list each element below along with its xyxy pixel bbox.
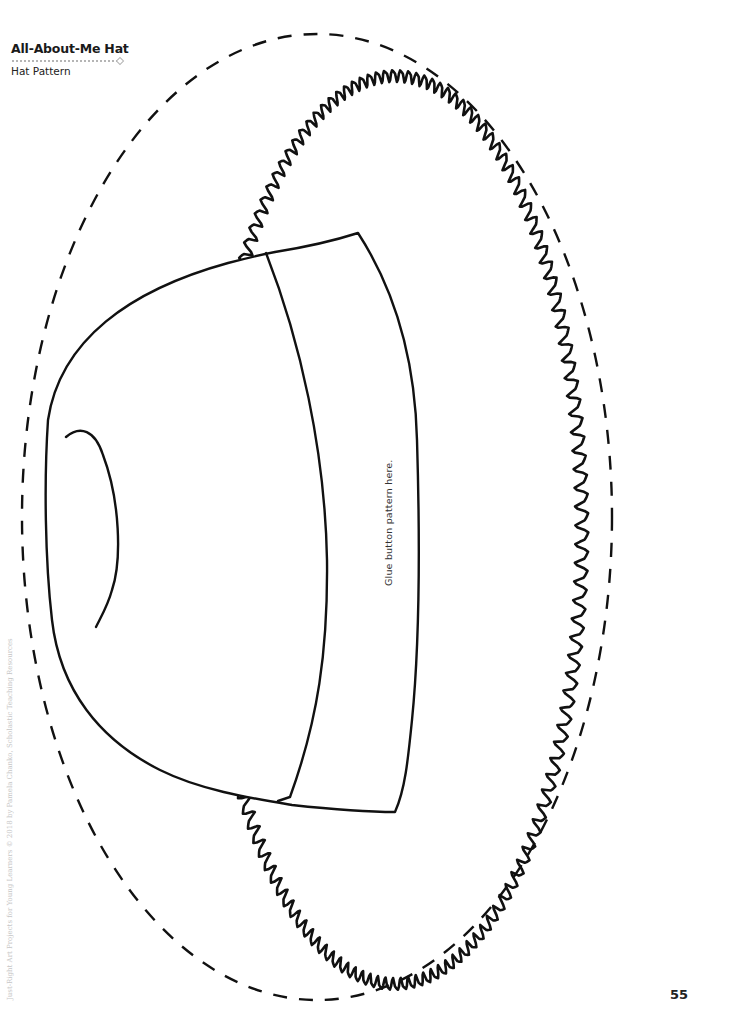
page-number: 55 [670, 987, 688, 1002]
glue-instruction: Glue button pattern here. [383, 459, 394, 586]
hat-crown [46, 233, 419, 812]
hat-pattern-drawing [0, 0, 730, 1035]
